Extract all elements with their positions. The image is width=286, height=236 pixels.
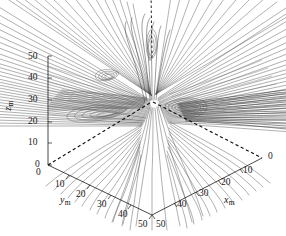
x-axis-title: xm — [224, 195, 234, 206]
z-axis-title: zm — [3, 101, 14, 111]
x-axis-title-letter: x — [224, 194, 228, 205]
z-axis-title-subscript: m — [6, 101, 15, 107]
z-tick-label-20: 20 — [28, 117, 38, 127]
y-axis-title-letter: y — [60, 194, 64, 205]
contour-fan-right-bands — [158, 10, 286, 132]
x-tick-label-50: 50 — [156, 220, 166, 230]
z-tick-label-40: 40 — [28, 73, 38, 83]
x-tick-label-10: 10 — [243, 166, 253, 176]
x-tick-label-20: 20 — [221, 178, 231, 188]
contour-lines-group — [0, 0, 286, 230]
contour-lower-right-arcs — [167, 122, 270, 228]
x-tick-label-30: 30 — [199, 189, 209, 199]
z-axis-title-letter: z — [2, 107, 13, 111]
x-tick-label-40: 40 — [177, 200, 187, 210]
dashed-reference-lines — [48, 102, 262, 165]
y-axis-title-subscript: m — [65, 198, 71, 207]
y-tick-label-20: 20 — [76, 190, 86, 200]
y-tick-label-30: 30 — [97, 200, 107, 210]
y-tick-label-10: 10 — [55, 180, 65, 190]
contour-lower-left-arcs — [46, 124, 143, 230]
z-tick-label-50: 50 — [28, 52, 38, 62]
z-tick-label-30: 30 — [28, 95, 38, 105]
x-axis-title-subscript: m — [229, 198, 235, 207]
y-tick-label-40: 40 — [118, 210, 128, 220]
contour-plot-canvas — [0, 0, 286, 236]
y-tick-label-50: 50 — [138, 220, 148, 230]
y-axis-title: ym — [60, 195, 70, 206]
z-tick-label-10: 10 — [28, 138, 38, 148]
figure-root: 50 40 30 20 10 0 0 10 20 30 40 50 0 10 2… — [0, 0, 286, 236]
x-tick-label-0: 0 — [268, 152, 273, 162]
y-tick-label-0: 0 — [36, 168, 41, 178]
